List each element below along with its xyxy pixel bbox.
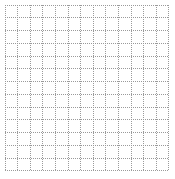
grid-svg <box>5 5 169 171</box>
grid-area <box>5 5 169 171</box>
grid-lines-horizontal <box>5 6 169 171</box>
screenshot-canvas <box>0 0 175 179</box>
grid-lines-vertical <box>6 5 169 171</box>
